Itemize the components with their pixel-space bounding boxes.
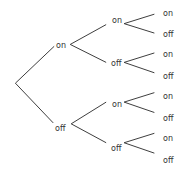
node-on-off: off: [111, 59, 121, 69]
branch-off-on: [71, 102, 106, 124]
branch-on-off-on: [124, 53, 154, 62]
branch-off-on-off: [124, 102, 154, 112]
leaf-on-off-on: on: [163, 50, 173, 60]
branch-off-on-on: [124, 93, 154, 102]
branch-root-on: [15, 46, 54, 83]
leaf-on-on-on: on: [163, 9, 173, 19]
branch-off-off: [71, 124, 106, 143]
leaf-off-on-on: on: [163, 92, 173, 102]
branch-on-on: [70, 25, 106, 45]
leaf-off-off-off: off: [163, 156, 173, 166]
branch-on-on-off: [124, 24, 154, 33]
branch-off-off-off: [124, 143, 154, 153]
node-off: off: [55, 124, 65, 134]
tree-diagram: on off on off on off on off on off on of…: [0, 0, 183, 173]
branch-off-off-on: [124, 133, 154, 142]
branch-root-off: [15, 83, 53, 123]
node-on: on: [56, 41, 66, 51]
leaf-off-on-off: off: [163, 114, 173, 124]
branch-on-off-off: [124, 62, 154, 72]
node-off-off: off: [111, 144, 121, 154]
branch-on-on-on: [124, 14, 154, 23]
leaf-on-on-off: off: [163, 30, 173, 40]
node-on-on: on: [112, 16, 122, 26]
branch-on-off: [70, 44, 106, 62]
leaf-on-off-off: off: [163, 72, 173, 82]
node-off-on: on: [112, 100, 122, 110]
tree-branches: [0, 0, 183, 173]
leaf-off-off-on: on: [163, 134, 173, 144]
